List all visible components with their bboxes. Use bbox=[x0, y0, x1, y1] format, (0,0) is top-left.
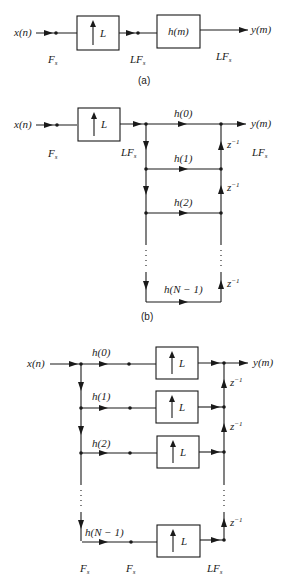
node-dot bbox=[127, 362, 131, 366]
upsampler-box-c-0 bbox=[156, 347, 198, 379]
panel-b: x(n) L h(0) y(m) z−1 z−1 z−1 bbox=[13, 107, 271, 322]
rate-left-c: Fs bbox=[79, 562, 90, 576]
node-dot bbox=[222, 405, 226, 409]
down-arrow-icon bbox=[143, 141, 149, 150]
node-dot bbox=[222, 538, 226, 542]
upsampler-label-a: L bbox=[99, 27, 106, 39]
node-dot bbox=[136, 31, 140, 35]
tap-label-c-0: h(0) bbox=[92, 346, 111, 359]
arrow-icon bbox=[211, 404, 220, 410]
input-label-c: x(n) bbox=[26, 357, 45, 370]
output-label-a: y(m) bbox=[250, 23, 271, 36]
tap-label-b-n: h(N − 1) bbox=[164, 283, 203, 296]
caption-b: (b) bbox=[141, 311, 153, 322]
down-arrow-icon bbox=[78, 520, 84, 529]
up-arrow-icon bbox=[221, 518, 227, 527]
upsampler-box-c-n bbox=[157, 525, 200, 557]
arrow-icon bbox=[211, 449, 220, 455]
filter-label-a: h(m) bbox=[168, 25, 189, 38]
tap-label-c-1: h(1) bbox=[92, 390, 111, 403]
tap-label-b-1: h(1) bbox=[174, 152, 193, 165]
arrow-icon bbox=[44, 30, 53, 36]
tap-label-c-n: h(N − 1) bbox=[85, 526, 124, 539]
up-arrow-icon bbox=[218, 185, 224, 194]
panel-c: x(n) h(0) L y(m) z−1 z−1 z−1 bbox=[26, 346, 273, 576]
node-dot bbox=[55, 123, 59, 127]
up-arrow-icon bbox=[221, 423, 227, 432]
delay-label-b-3: z−1 bbox=[226, 277, 240, 289]
tap-label-b-0: h(0) bbox=[174, 107, 193, 120]
delay-label-c-1: z−1 bbox=[229, 376, 243, 388]
node-dot bbox=[128, 451, 132, 455]
arrow-icon bbox=[99, 539, 108, 545]
upsampler-label-c-n: L bbox=[180, 535, 187, 547]
arrow-icon bbox=[178, 121, 187, 127]
up-arrow-icon bbox=[221, 379, 227, 388]
upsampler-label-b: L bbox=[100, 118, 107, 130]
arrow-icon bbox=[126, 30, 135, 36]
down-arrow-icon bbox=[78, 426, 84, 435]
delay-label-c-2: z−1 bbox=[229, 420, 243, 432]
arrow-icon bbox=[179, 166, 188, 172]
input-label-b: x(n) bbox=[13, 118, 32, 131]
arrow-icon bbox=[99, 361, 108, 367]
upsampler-box-b bbox=[78, 108, 120, 141]
arrow-icon bbox=[211, 537, 220, 543]
node-dot bbox=[144, 211, 148, 215]
tap-label-b-2: h(2) bbox=[174, 196, 193, 209]
delay-label-c-3: z−1 bbox=[229, 516, 243, 528]
arrow-icon bbox=[239, 27, 248, 33]
down-arrow-icon bbox=[143, 281, 149, 290]
rate-mid-c: Fs bbox=[125, 562, 136, 576]
node-dot bbox=[79, 451, 83, 455]
caption-a: (a) bbox=[138, 75, 150, 86]
delay-label-b-2: z−1 bbox=[226, 181, 240, 193]
arrow-icon bbox=[179, 299, 188, 305]
output-label-c: y(m) bbox=[252, 356, 273, 369]
rate-mid-b: LFs bbox=[120, 146, 137, 160]
arrow-icon bbox=[211, 360, 220, 366]
arrow-icon bbox=[44, 122, 53, 128]
arrow-icon bbox=[99, 405, 108, 411]
output-label-b: y(m) bbox=[250, 117, 271, 130]
arrow-icon bbox=[133, 121, 142, 127]
upsampler-label-c-2: L bbox=[179, 446, 186, 458]
down-arrow-icon bbox=[78, 382, 84, 391]
panel-a: x(n) L h(m) y(m) Fs LFs LFs (a) bbox=[13, 15, 271, 86]
node-dot bbox=[222, 450, 226, 454]
upsampler-label-c-0: L bbox=[178, 357, 185, 369]
node-dot bbox=[129, 540, 133, 544]
rate-in-a: Fs bbox=[47, 53, 58, 67]
node-dot bbox=[219, 211, 223, 215]
input-label-a: x(n) bbox=[13, 26, 32, 39]
upsampler-label-c-1: L bbox=[178, 401, 185, 413]
node-dot bbox=[128, 406, 132, 410]
up-arrow-icon bbox=[218, 280, 224, 289]
arrow-icon bbox=[99, 450, 108, 456]
node-dot bbox=[219, 167, 223, 171]
rate-in-b: Fs bbox=[47, 147, 58, 161]
up-arrow-icon bbox=[218, 141, 224, 150]
down-arrow-icon bbox=[143, 186, 149, 195]
upsampler-box-c-1 bbox=[156, 391, 198, 423]
node-dot bbox=[54, 31, 58, 35]
arrow-icon bbox=[179, 210, 188, 216]
rate-out-b: LFs bbox=[251, 146, 268, 160]
tap-label-c-2: h(2) bbox=[92, 437, 111, 450]
delay-label-b-1: z−1 bbox=[226, 138, 240, 150]
arrow-icon bbox=[239, 360, 248, 366]
upsampler-box-c-2 bbox=[157, 436, 199, 468]
arrow-icon bbox=[237, 121, 246, 127]
arrow-icon bbox=[69, 361, 78, 367]
upsampler-box-a bbox=[77, 16, 119, 50]
rate-right-c: LFs bbox=[206, 562, 223, 576]
node-dot bbox=[79, 406, 83, 410]
rate-out-a: LFs bbox=[215, 50, 232, 64]
rate-mid-a: LFs bbox=[129, 53, 146, 67]
node-dot bbox=[144, 167, 148, 171]
